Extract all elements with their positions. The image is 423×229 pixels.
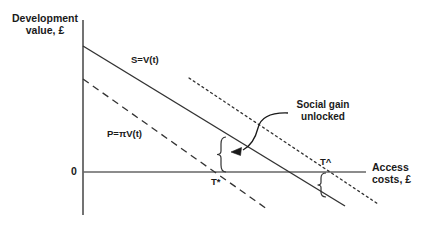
social-gain-annotation: Social gain unlocked: [281, 99, 365, 123]
development-value-access-costs-diagram: Development value, £ S=V(t) P=πV(t) 0 T*…: [0, 0, 423, 229]
t-star-label: T*: [211, 176, 221, 187]
x-axis-title: Access costs, £: [372, 161, 422, 186]
origin-label: 0: [71, 165, 77, 177]
private-value-line-label: P=πV(t): [107, 128, 142, 139]
private-value-line: [83, 79, 267, 209]
t-hat-label: T^: [320, 156, 331, 167]
social-value-line-label: S=V(t): [131, 54, 159, 65]
t-star-brace: [217, 137, 226, 172]
y-axis-title: Development value, £: [6, 12, 84, 37]
social-gain-arrowhead: [231, 148, 242, 156]
